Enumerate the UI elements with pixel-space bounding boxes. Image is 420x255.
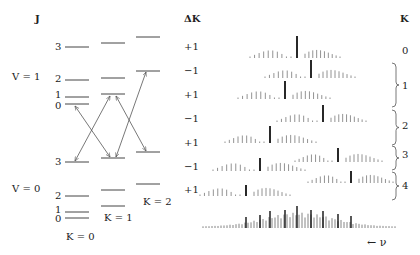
j-label: 2 (55, 191, 61, 201)
delta-k-value: +1 (184, 138, 199, 148)
delta-k-header: ΔK (184, 14, 200, 24)
k2-label: K = 2 (143, 197, 172, 207)
delta-k-value: −1 (184, 162, 199, 172)
k-brace (392, 110, 399, 145)
frequency-axis-label: ← ν (367, 238, 386, 248)
j-label: 3 (55, 42, 61, 52)
sub-band-row (250, 36, 340, 58)
k-brace (392, 63, 399, 107)
j-label: 1 (55, 90, 61, 100)
j-label: 0 (55, 214, 61, 224)
transition-arrow (116, 96, 146, 151)
delta-k-value: +1 (184, 90, 199, 100)
transition-arrow (75, 106, 110, 157)
energy-level-diagram (0, 0, 420, 255)
k-value: 0 (402, 46, 408, 56)
delta-k-value: +1 (184, 42, 199, 52)
j-label: 3 (55, 157, 61, 167)
sub-band-row (200, 185, 290, 196)
k-value: 3 (402, 150, 408, 160)
v1-label: V = 1 (12, 72, 40, 82)
delta-k-value: −1 (184, 114, 199, 124)
k-braces (392, 63, 399, 200)
sub-band-row (265, 60, 355, 78)
delta-k-value: −1 (184, 66, 199, 76)
j-label: 0 (55, 101, 61, 111)
k-value: 4 (402, 181, 408, 191)
sub-band-row (295, 148, 382, 162)
j-label: 2 (55, 74, 61, 84)
sub-band-row (308, 171, 393, 183)
sub-band-row (213, 158, 305, 171)
j-header: J (35, 14, 40, 24)
k1-label: K = 1 (104, 213, 133, 223)
sub-band-spectra (200, 36, 393, 196)
sub-band-row (277, 105, 366, 122)
k-brace (392, 146, 399, 170)
k-value: 1 (402, 81, 408, 91)
transition-arrows (75, 72, 146, 161)
delta-k-value: +1 (184, 185, 199, 195)
energy-levels (65, 37, 160, 218)
composite-spectrum (203, 206, 395, 228)
transition-arrow (116, 72, 146, 157)
sub-band-row (225, 126, 316, 143)
k0-label: K = 0 (66, 232, 95, 242)
transition-arrow (75, 96, 110, 161)
k-brace (392, 172, 399, 200)
sub-band-row (238, 81, 330, 99)
k-header: K (400, 14, 409, 24)
v0-label: V = 0 (12, 184, 40, 194)
k-value: 2 (402, 121, 408, 131)
